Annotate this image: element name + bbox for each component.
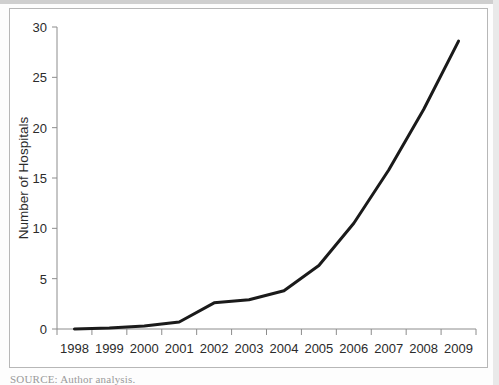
x-axis-tick-label: 2007 [374,341,403,356]
x-axis-tick-label: 2000 [130,341,159,356]
y-axis-title: Number of Hospitals [16,117,31,240]
chart-frame: 0510152025301998199920002001200220032004… [9,8,488,368]
y-axis-tick-label: 0 [40,322,47,337]
x-axis-tick-label: 2001 [165,341,194,356]
x-axis-tick-label: 2008 [409,341,438,356]
y-axis-tick-label: 25 [33,70,47,85]
scan-edge-top [0,0,499,4]
source-caption: SOURCE: Author analysis. [10,373,310,385]
x-axis-tick-label: 2009 [444,341,473,356]
scanned-page: 0510152025301998199920002001200220032004… [0,0,499,385]
x-axis-tick-label: 1998 [60,341,89,356]
x-axis-tick-label: 2004 [269,341,298,356]
y-axis-tick-label: 5 [40,272,47,287]
y-axis-tick-label: 10 [33,221,47,236]
y-axis-tick-label: 30 [33,20,47,35]
data-series-line [74,41,458,329]
y-axis-tick-label: 15 [33,171,47,186]
x-axis-tick-label: 1999 [95,341,124,356]
scan-edge-right [493,0,499,385]
x-axis-tick-label: 2006 [339,341,368,356]
line-chart: 0510152025301998199920002001200220032004… [10,9,487,367]
x-axis-tick-label: 2005 [304,341,333,356]
x-axis-tick-label: 2003 [235,341,264,356]
y-axis-tick-label: 20 [33,121,47,136]
x-axis-tick-label: 2002 [200,341,229,356]
